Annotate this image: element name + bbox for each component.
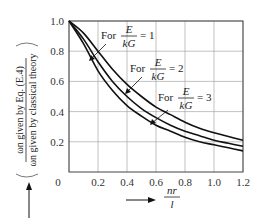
y-label-numerator: ωn given by Eq. (E.4) <box>14 66 26 154</box>
y-label-denominator: ωn given by classical theory <box>27 53 38 166</box>
x-tick-label: 1.2 <box>236 176 250 188</box>
x-tick-label: 0 <box>55 176 61 188</box>
up-arrow-icon <box>26 182 32 218</box>
x-tick-label: 0.2 <box>91 176 105 188</box>
y-tick-label: 0.8 <box>50 45 64 57</box>
annotation-eq: = 1 <box>140 29 154 41</box>
annotation-for: For <box>101 29 117 41</box>
x-tick-label: 1.0 <box>207 176 221 188</box>
annotation-eq: = 2 <box>169 62 183 74</box>
x-label-numerator: nr <box>167 184 178 196</box>
y-tick-label: 0.4 <box>50 106 64 118</box>
x-tick-label: 0.4 <box>120 176 134 188</box>
y-tick-labels: 0.20.40.60.81.0 <box>50 15 64 148</box>
x-tick-label: 0.8 <box>178 176 192 188</box>
y-axis-label: ωn given by Eq. (E.4) ωn given by classi… <box>14 43 38 177</box>
annotation-e-kg-1: For E kG = 1 <box>89 23 154 61</box>
chart: 00.20.40.60.81.01.2 0.20.40.60.81.0 For … <box>0 0 259 222</box>
y-tick-label: 0.2 <box>50 136 64 148</box>
x-tick-label: 0.6 <box>149 176 163 188</box>
annotation-for: For <box>130 62 146 74</box>
annotation-frac-num: E <box>182 85 190 97</box>
y-tick-label: 1.0 <box>50 15 64 27</box>
arrowhead-icon <box>148 197 156 203</box>
annotation-frac-num: E <box>154 56 162 68</box>
annotation-frac-den: kG <box>180 99 193 111</box>
arrow-icon <box>127 77 142 92</box>
left-paren-icon <box>16 174 38 177</box>
grid-lines <box>69 21 243 172</box>
y-tick-label: 0.6 <box>50 75 64 87</box>
annotation-frac-den: kG <box>152 70 165 82</box>
annotation-for: For <box>158 91 174 103</box>
annotation-frac-den: kG <box>123 37 136 49</box>
annotation-frac-num: E <box>125 23 133 35</box>
x-label-denominator: l <box>170 198 173 210</box>
annotation-eq: = 3 <box>197 91 212 103</box>
annotation-e-kg-2: For E kG = 2 <box>125 56 183 94</box>
right-paren-icon <box>16 43 38 46</box>
x-tick-labels: 00.20.40.60.81.01.2 <box>55 176 250 188</box>
